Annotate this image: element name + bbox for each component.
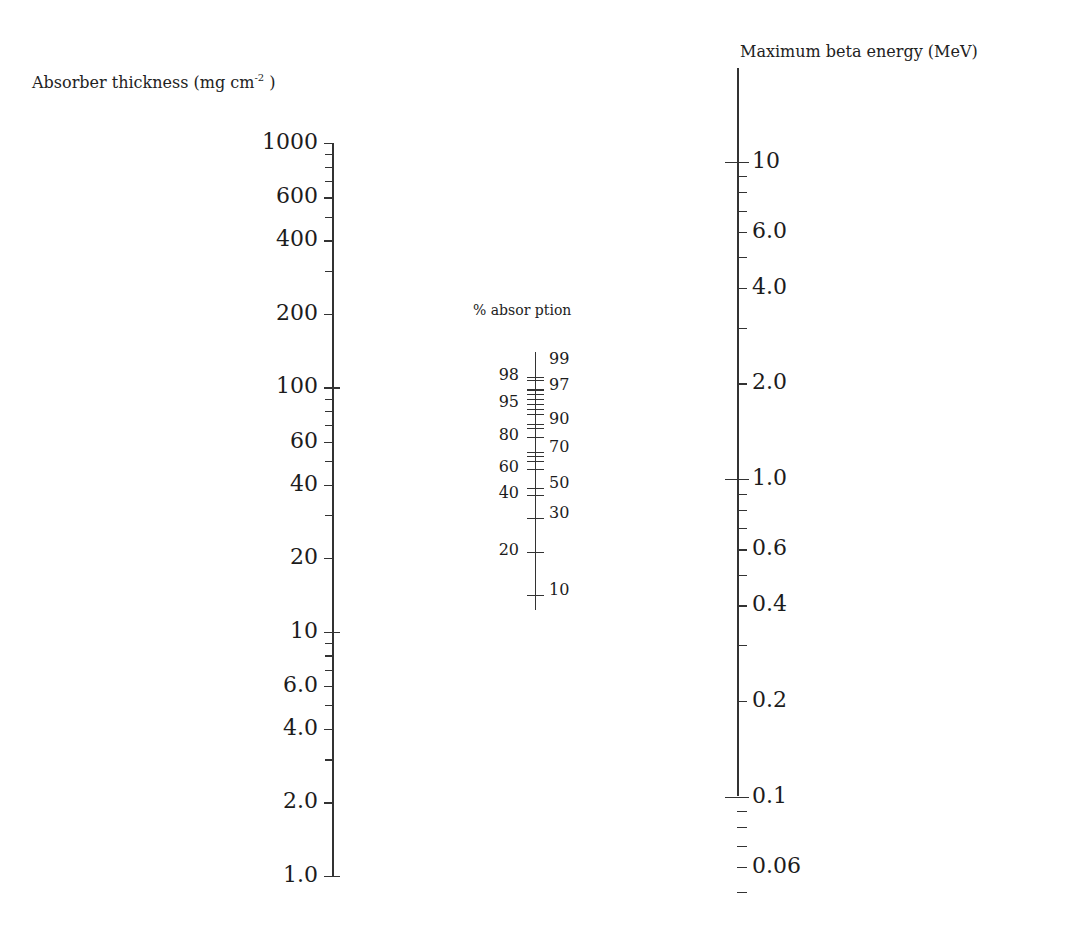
- middle-left-tick-label: 60: [479, 459, 519, 475]
- left-minor-tick: [325, 399, 332, 400]
- right-tick-label: 0.06: [752, 855, 801, 877]
- middle-tick: [527, 404, 544, 405]
- middle-minor-tick: [527, 399, 544, 400]
- right-major-tick: [737, 867, 747, 868]
- right-minor-tick: [737, 827, 747, 828]
- left-major-tick: [324, 240, 332, 241]
- right-cross-tick: [725, 162, 749, 163]
- left-major-tick: [324, 197, 332, 198]
- middle-tick: [527, 595, 544, 596]
- middle-right-tick-label: 90: [549, 411, 569, 427]
- left-minor-tick: [325, 643, 332, 644]
- right-major-tick: [737, 383, 747, 384]
- right-minor-tick: [737, 328, 747, 329]
- middle-tick: [527, 424, 544, 425]
- left-cross-tick: [324, 632, 340, 633]
- left-axis-line: [332, 143, 334, 876]
- middle-left-tick-label: 40: [479, 485, 519, 501]
- left-axis-title-close: ): [264, 73, 275, 92]
- left-tick-label: 200: [228, 302, 318, 324]
- middle-minor-tick: [527, 394, 544, 395]
- right-minor-tick: [737, 811, 747, 812]
- left-axis-title: Absorber thickness (mg cm-2 ): [32, 72, 275, 92]
- right-minor-tick: [737, 645, 747, 646]
- right-major-tick: [737, 288, 747, 289]
- right-major-tick: [737, 605, 747, 606]
- left-minor-tick: [325, 670, 332, 671]
- left-tick-label: 600: [228, 185, 318, 207]
- right-minor-tick: [737, 575, 747, 576]
- right-major-tick: [737, 232, 747, 233]
- left-tick-label: 20: [228, 546, 318, 568]
- middle-right-tick-label: 97: [549, 377, 569, 393]
- left-cross-tick: [324, 876, 340, 877]
- right-tick-label: 0.1: [752, 785, 787, 807]
- left-major-tick: [324, 485, 332, 486]
- middle-tick: [527, 377, 544, 378]
- right-minor-tick: [737, 192, 747, 193]
- right-tick-label: 1.0: [752, 467, 787, 489]
- left-major-tick: [324, 729, 332, 730]
- middle-tick: [527, 552, 544, 553]
- middle-right-tick-label: 70: [549, 439, 569, 455]
- middle-right-tick-label: 99: [549, 351, 569, 367]
- right-minor-tick: [737, 528, 747, 529]
- left-tick-label: 400: [228, 228, 318, 250]
- right-tick-label: 4.0: [752, 276, 787, 298]
- left-minor-tick: [325, 759, 332, 760]
- middle-tick: [527, 390, 544, 391]
- middle-minor-tick: [527, 414, 544, 415]
- nomogram: Absorber thickness (mg cm-2 ) % absor pt…: [0, 0, 1078, 936]
- middle-tick: [527, 488, 544, 489]
- middle-tick: [527, 495, 544, 496]
- right-tick-label: 2.0: [752, 371, 787, 393]
- middle-tick: [527, 469, 544, 470]
- middle-minor-tick: [527, 461, 544, 462]
- left-minor-tick: [325, 181, 332, 182]
- right-minor-tick: [737, 211, 747, 212]
- middle-tick: [527, 437, 544, 438]
- left-minor-tick: [325, 515, 332, 516]
- right-minor-tick: [737, 892, 747, 893]
- right-tick-label: 0.4: [752, 593, 787, 615]
- left-major-tick: [324, 143, 332, 144]
- right-cross-tick: [725, 797, 749, 798]
- left-minor-tick: [325, 167, 332, 168]
- right-axis-title: Maximum beta energy (MeV): [740, 42, 978, 61]
- left-major-tick: [324, 558, 332, 559]
- left-tick-label: 6.0: [228, 674, 318, 696]
- middle-minor-tick: [527, 456, 544, 457]
- left-minor-tick: [325, 461, 332, 462]
- left-tick-label: 1000: [228, 131, 318, 153]
- left-minor-tick: [325, 705, 332, 706]
- right-major-tick: [737, 549, 747, 550]
- left-tick-label: 100: [228, 375, 318, 397]
- middle-right-tick-label: 30: [549, 505, 569, 521]
- right-tick-label: 6.0: [752, 220, 787, 242]
- left-tick-label: 1.0: [228, 864, 318, 886]
- middle-tick: [527, 518, 544, 519]
- left-minor-tick: [325, 411, 332, 412]
- left-axis-title-exponent: -2: [254, 72, 264, 83]
- middle-left-tick-label: 98: [479, 367, 519, 383]
- right-major-tick: [737, 701, 747, 702]
- right-tick-label: 0.2: [752, 689, 787, 711]
- middle-right-tick-label: 10: [549, 582, 569, 598]
- right-minor-tick: [737, 494, 747, 495]
- middle-left-tick-label: 20: [479, 542, 519, 558]
- right-tick-label: 0.6: [752, 537, 787, 559]
- right-minor-tick: [737, 846, 747, 847]
- left-major-tick: [324, 802, 332, 803]
- left-tick-label: 2.0: [228, 790, 318, 812]
- left-tick-label: 40: [228, 473, 318, 495]
- right-minor-tick: [737, 176, 747, 177]
- left-minor-tick: [325, 154, 332, 155]
- middle-left-tick-label: 80: [479, 427, 519, 443]
- left-axis-title-text: Absorber thickness (mg cm: [32, 73, 254, 92]
- left-major-tick: [324, 686, 332, 687]
- middle-minor-tick: [527, 380, 544, 381]
- middle-left-tick-label: 95: [479, 394, 519, 410]
- middle-tick: [527, 452, 544, 453]
- middle-minor-tick: [527, 409, 544, 410]
- left-minor-tick: [325, 655, 332, 656]
